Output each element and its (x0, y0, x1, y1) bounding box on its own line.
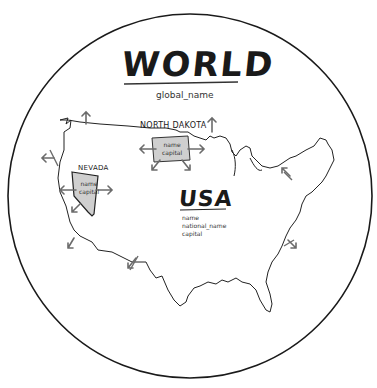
north-dakota-attr-capital: capital (162, 149, 182, 157)
nevada-attr-name: name (79, 180, 99, 188)
usa-attr-national-name: national_name (182, 222, 226, 230)
usa-title: USA (178, 186, 234, 211)
nevada-attributes: name capital (79, 180, 99, 196)
world-attribute: global_name (156, 90, 213, 100)
north-dakota-title: NORTH DAKOTA (140, 121, 207, 130)
nevada-attr-capital: capital (79, 188, 99, 196)
usa-attr-capital: capital (182, 230, 226, 238)
usa-attr-name: name (182, 214, 226, 222)
north-dakota-attr-name: name (162, 141, 182, 149)
lake-michigan (232, 150, 235, 176)
nevada-title: NEVADA (78, 164, 109, 172)
world-title: WORLD (120, 44, 277, 84)
north-dakota-attributes: name capital (162, 141, 182, 157)
usa-attributes: name national_name capital (182, 214, 226, 238)
